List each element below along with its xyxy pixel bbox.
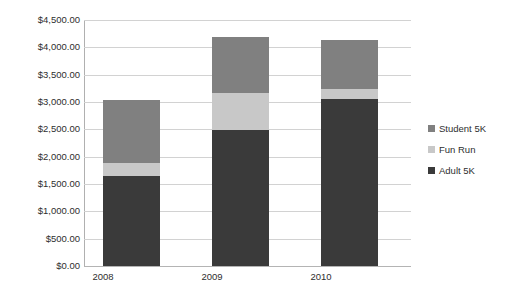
y-axis-tick-label: $4,000.00 — [2, 42, 80, 52]
y-axis-tick-label: $3,000.00 — [2, 97, 80, 107]
gridline — [84, 20, 411, 21]
bar-segment-fun-run[interactable] — [321, 89, 378, 99]
legend-swatch-icon — [428, 167, 435, 174]
legend-label: Student 5K — [439, 123, 486, 134]
chart-legend: Student 5K Fun Run Adult 5K — [428, 118, 511, 181]
y-axis-tick-label: $1,500.00 — [2, 179, 80, 189]
x-axis-tick-label-2008: 2008 — [48, 271, 158, 282]
y-axis-tick-label: $1,000.00 — [2, 206, 80, 216]
bar-segment-student-5k[interactable] — [103, 100, 160, 163]
y-axis-tick-label: $500.00 — [2, 234, 80, 244]
bar-segment-student-5k[interactable] — [321, 40, 378, 89]
plot-area — [84, 20, 411, 266]
bar-segment-adult-5k[interactable] — [212, 130, 269, 266]
legend-item-student-5k[interactable]: Student 5K — [428, 118, 511, 139]
bar-segment-fun-run[interactable] — [212, 93, 269, 130]
x-axis-line — [84, 266, 411, 267]
y-axis-tick-label: $3,500.00 — [2, 70, 80, 80]
legend-swatch-icon — [428, 146, 435, 153]
bar-segment-fun-run[interactable] — [103, 163, 160, 176]
y-axis-tick-label: $2,500.00 — [2, 124, 80, 134]
y-axis-tick-label: $0.00 — [2, 261, 80, 271]
bar-segment-adult-5k[interactable] — [321, 99, 378, 266]
legend-item-adult-5k[interactable]: Adult 5K — [428, 160, 511, 181]
legend-item-fun-run[interactable]: Fun Run — [428, 139, 511, 160]
legend-label: Adult 5K — [439, 165, 475, 176]
bar-segment-student-5k[interactable] — [212, 37, 269, 93]
y-axis-tick-label: $2,000.00 — [2, 152, 80, 162]
chart-container: $4,500.00 $4,000.00 $3,500.00 $3,000.00 … — [0, 0, 511, 301]
bar-segment-adult-5k[interactable] — [103, 176, 160, 266]
y-axis-labels: $4,500.00 $4,000.00 $3,500.00 $3,000.00 … — [0, 20, 80, 266]
x-axis-tick-label-2009: 2009 — [157, 271, 267, 282]
y-axis-tick-label: $4,500.00 — [2, 15, 80, 25]
x-axis-tick-label-2010: 2010 — [266, 271, 376, 282]
legend-swatch-icon — [428, 125, 435, 132]
legend-label: Fun Run — [439, 144, 475, 155]
